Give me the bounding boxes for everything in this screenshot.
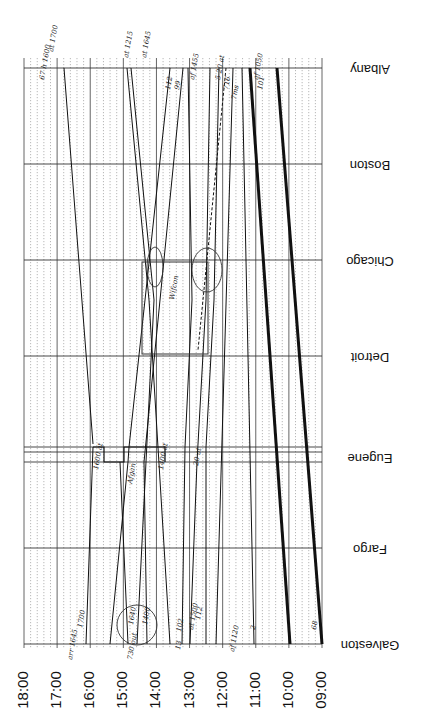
handwritten-note: 102 xyxy=(175,617,185,632)
handwritten-note: 99 xyxy=(173,80,183,91)
highlight-circle xyxy=(147,247,163,287)
time-tick-label: 12:00 xyxy=(213,671,230,709)
time-tick-label: 11:00 xyxy=(246,672,263,708)
station-label-chicago: Chicago xyxy=(346,254,394,269)
handwritten-note: af 1120 xyxy=(228,624,241,652)
handwritten-note: 1400 xyxy=(141,606,152,625)
handwritten-note: at 1215 xyxy=(122,30,135,59)
train-path xyxy=(86,447,93,644)
handwritten-note: 1600 at xyxy=(92,442,105,470)
station-label-boston: Boston xyxy=(350,158,390,173)
time-tick-label: 09:00 xyxy=(312,671,329,709)
time-tick-label: 16:00 xyxy=(80,671,97,709)
grid xyxy=(24,58,322,648)
time-tick-label: 14:00 xyxy=(146,671,163,709)
station-label-albany: Albany xyxy=(350,62,390,77)
handwritten-note: 68 xyxy=(310,620,320,631)
station-label-detroit: Detroit xyxy=(350,350,389,365)
handwritten-note: af 1455 xyxy=(188,52,201,80)
station-label-fargo: Fargo xyxy=(353,542,387,557)
train-path xyxy=(120,462,128,644)
handwritten-note: 1700 xyxy=(76,609,87,628)
train-path xyxy=(198,68,226,350)
handwritten-note: 7ms xyxy=(230,84,240,100)
handwritten-note: af 1050 xyxy=(252,52,265,80)
time-tick-label: 18:00 xyxy=(14,671,31,709)
timetable-diagram: 681012af 112011213at 150010214001640730 … xyxy=(0,0,422,723)
station-label-eugene: Eugene xyxy=(348,451,393,466)
train-path xyxy=(64,68,93,444)
time-tick-label: 13:00 xyxy=(180,671,197,709)
handwritten-note: at 1700 xyxy=(47,24,60,53)
time-tick-label: 10:00 xyxy=(279,671,296,709)
handwritten-note: 20 at xyxy=(192,447,203,467)
annotations: 681012af 112011213at 150010214001640730 … xyxy=(38,24,320,661)
axis-labels: 18:0017:0016:0015:0014:0013:0012:0011:00… xyxy=(14,62,399,709)
handwritten-note: 716 xyxy=(222,75,232,90)
handwritten-note: at 1645 xyxy=(140,30,153,59)
handwritten-note: 1400 at xyxy=(157,442,170,470)
station-lines xyxy=(24,68,322,644)
handwritten-note: Wifcon xyxy=(168,274,180,300)
time-tick-label: 17:00 xyxy=(47,671,64,709)
station-label-galveston: Galveston xyxy=(341,638,400,653)
time-tick-label: 15:00 xyxy=(113,671,130,709)
